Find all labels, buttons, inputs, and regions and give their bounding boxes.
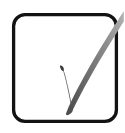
checkbox-checked-icon[interactable]	[0, 0, 125, 133]
icon-canvas: Checked checkbox Hand-drawn check mark i…	[0, 0, 125, 133]
checkbox-box[interactable]	[14, 15, 117, 122]
